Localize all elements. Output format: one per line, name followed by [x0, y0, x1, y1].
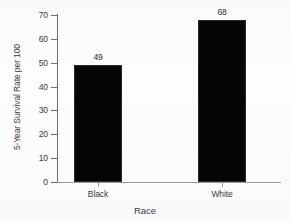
- y-axis-tick-label: 60: [26, 35, 48, 43]
- bar: [74, 65, 122, 182]
- y-axis-line: [57, 14, 58, 183]
- bar-value-label: 68: [198, 8, 246, 17]
- y-axis-tick: [51, 63, 57, 64]
- y-axis-tick: [51, 134, 57, 135]
- x-axis-category-label: Black: [63, 190, 133, 199]
- y-axis-tick-label: 10: [26, 154, 48, 162]
- bar-chart: 010203040506070 5-Year Survival Rate per…: [0, 0, 290, 221]
- y-axis-tick: [51, 110, 57, 111]
- y-axis-tick-label: 70: [26, 11, 48, 19]
- y-axis-tick-label: 50: [26, 59, 48, 67]
- y-axis-tick: [51, 87, 57, 88]
- y-axis-tick-label: 0: [26, 178, 48, 186]
- x-axis-category-label: White: [187, 190, 257, 199]
- y-axis-title: 5-Year Survival Rate per 100: [12, 27, 22, 167]
- y-axis-tick: [51, 182, 57, 183]
- x-axis-tick: [222, 182, 223, 187]
- bar-value-label: 49: [74, 53, 122, 62]
- y-axis-tick: [51, 15, 57, 16]
- y-axis-tick-label: 30: [26, 106, 48, 114]
- y-axis-tick-label: 20: [26, 130, 48, 138]
- bar: [198, 20, 246, 182]
- y-axis-tick: [51, 158, 57, 159]
- x-axis-tick: [98, 182, 99, 187]
- y-axis-tick: [51, 39, 57, 40]
- y-axis-tick-label: 40: [26, 83, 48, 91]
- x-axis-title: Race: [0, 205, 290, 216]
- x-axis-line: [57, 182, 281, 183]
